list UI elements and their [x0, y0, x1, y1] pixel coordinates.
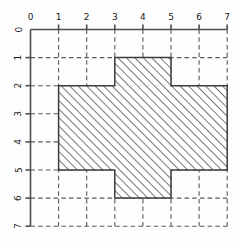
y-tick-label: 7	[14, 223, 24, 229]
plot-canvas: 0123456701234567	[0, 0, 240, 242]
y-tick-label: 5	[14, 167, 24, 173]
main-rectangle	[59, 86, 228, 170]
y-tick-label: 2	[14, 83, 24, 89]
plot-figure: 0123456701234567	[0, 0, 240, 242]
x-tick-label: 5	[168, 12, 174, 22]
y-tick-label: 3	[14, 111, 24, 117]
x-tick-label: 1	[56, 12, 62, 22]
y-tick-label: 1	[14, 55, 24, 61]
x-tick-label: 3	[112, 12, 118, 22]
x-tick-label: 0	[28, 12, 34, 22]
y-tick-label: 6	[14, 195, 24, 201]
bottom-block	[115, 170, 171, 198]
x-tick-label: 6	[196, 12, 202, 22]
y-tick-label: 4	[14, 139, 24, 145]
top-block	[115, 58, 171, 86]
y-tick-label: 0	[14, 26, 24, 32]
x-tick-label: 2	[84, 12, 90, 22]
x-tick-label: 4	[140, 12, 146, 22]
x-tick-label: 7	[224, 12, 230, 22]
